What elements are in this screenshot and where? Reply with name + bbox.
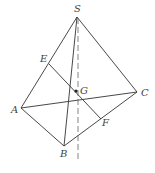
- label-C: C: [141, 87, 149, 98]
- label-E: E: [39, 53, 48, 64]
- edge-AB: [21, 108, 64, 146]
- edge-AC: [21, 92, 137, 108]
- label-A: A: [10, 104, 18, 115]
- edge-SC: [77, 17, 137, 92]
- label-S: S: [74, 3, 81, 14]
- point-G: [74, 89, 77, 92]
- tetrahedron-diagram: S A B C E F G: [0, 0, 155, 173]
- label-B: B: [59, 148, 67, 159]
- label-F: F: [101, 117, 110, 128]
- label-G: G: [80, 85, 88, 96]
- edge-SA: [21, 17, 77, 108]
